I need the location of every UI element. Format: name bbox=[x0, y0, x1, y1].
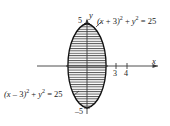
y-tick-label-minus-5: –5 bbox=[75, 108, 83, 116]
eq-left-equals: = bbox=[45, 89, 54, 99]
annotation-circle-left-equation: (x – 3)2 + y2 = 25 bbox=[4, 90, 63, 99]
eq-right-op-plus-2: + bbox=[123, 16, 132, 26]
eq-left-value: 25 bbox=[54, 89, 63, 99]
eq-left-op-plus: + bbox=[29, 89, 38, 99]
eq-right-value: 25 bbox=[148, 16, 157, 26]
annotation-circle-right-equation: (x + 3)2 + y2 = 25 bbox=[97, 17, 156, 26]
y-tick-label-5: 5 bbox=[78, 17, 82, 25]
x-axis-label: x bbox=[152, 57, 156, 66]
x-tick-label-3: 3 bbox=[113, 70, 117, 78]
x-tick-label-4: 4 bbox=[124, 70, 128, 78]
y-axis-label: y bbox=[89, 11, 93, 20]
eq-right-equals: = bbox=[139, 16, 148, 26]
math-figure: (x + 3)2 + y2 = 25 (x – 3)2 + y2 = 25 y … bbox=[0, 0, 170, 126]
eq-left-op-minus: – bbox=[11, 89, 20, 99]
eq-right-op-plus: + bbox=[104, 16, 113, 26]
